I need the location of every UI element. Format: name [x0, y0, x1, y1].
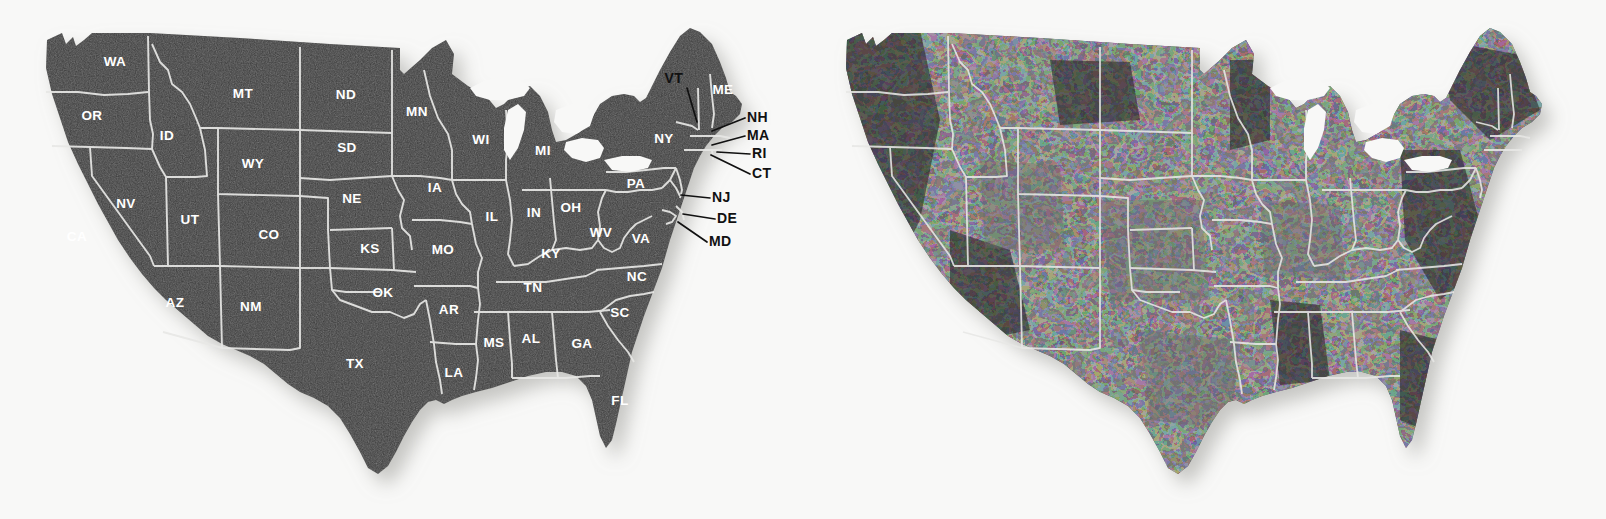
state-label-al: AL	[522, 331, 541, 346]
state-label-ny: NY	[654, 131, 674, 146]
state-reference-map-svg: WAORIDMTNDSDWYNVCAUTCONEKSAZNMOKTXMNIAMO…	[0, 0, 800, 519]
callout-label-ri: RI	[752, 145, 767, 161]
state-label-mn: MN	[406, 104, 428, 119]
state-label-ms: MS	[483, 335, 504, 350]
state-label-mt: MT	[233, 86, 254, 101]
callout-leader-de	[683, 214, 715, 219]
state-label-ut: UT	[181, 212, 200, 227]
state-label-ar: AR	[439, 302, 459, 317]
callout-leader-ct	[711, 155, 750, 174]
state-label-ks: KS	[360, 241, 380, 256]
state-label-pa: PA	[627, 176, 646, 191]
state-label-sc: SC	[610, 305, 630, 320]
state-label-in: IN	[527, 205, 541, 220]
state-label-ok: OK	[372, 285, 393, 300]
state-label-sd: SD	[337, 140, 357, 155]
state-label-wy: WY	[242, 156, 265, 171]
state-label-ne: NE	[342, 191, 362, 206]
state-label-wa: WA	[104, 54, 127, 69]
county-shading-overlay	[800, 0, 1606, 519]
callout-label-vt: VT	[665, 70, 684, 86]
state-label-nv: NV	[116, 196, 136, 211]
callout-leader-md	[678, 222, 707, 242]
state-label-la: LA	[445, 365, 464, 380]
state-label-mi: MI	[535, 143, 551, 158]
callout-leader-nj	[681, 195, 710, 198]
state-label-co: CO	[258, 227, 279, 242]
state-label-ia: IA	[428, 180, 442, 195]
state-label-oh: OH	[560, 200, 581, 215]
callout-label-nh: NH	[747, 109, 768, 125]
state-label-nd: ND	[336, 87, 356, 102]
state-label-nm: NM	[240, 299, 262, 314]
state-label-il: IL	[486, 209, 499, 224]
county-choropleth-map-panel	[800, 0, 1606, 519]
state-label-ky: KY	[541, 246, 561, 261]
callout-label-de: DE	[717, 210, 737, 226]
state-reference-map-panel: WAORIDMTNDSDWYNVCAUTCONEKSAZNMOKTXMNIAMO…	[0, 0, 800, 519]
county-choropleth-map-svg	[800, 0, 1606, 519]
callout-label-md: MD	[709, 233, 731, 249]
callout-label-ct: CT	[752, 165, 771, 181]
state-label-me: ME	[712, 82, 733, 97]
state-label-fl: FL	[611, 393, 628, 408]
state-label-nc: NC	[627, 269, 647, 284]
state-label-id: ID	[160, 128, 174, 143]
state-label-wi: WI	[472, 132, 489, 147]
state-label-va: VA	[632, 231, 651, 246]
state-label-or: OR	[81, 108, 102, 123]
map-stage: WAORIDMTNDSDWYNVCAUTCONEKSAZNMOKTXMNIAMO…	[0, 0, 1606, 519]
state-label-tx: TX	[346, 356, 364, 371]
state-label-ca: CA	[67, 229, 87, 244]
callout-label-ma: MA	[747, 127, 769, 143]
state-label-az: AZ	[166, 295, 185, 310]
state-label-wv: WV	[590, 225, 613, 240]
callout-label-nj: NJ	[712, 189, 731, 205]
state-label-mo: MO	[432, 242, 455, 257]
callout-leader-ri	[717, 152, 750, 154]
state-label-ga: GA	[571, 336, 592, 351]
state-label-tn: TN	[524, 280, 543, 295]
